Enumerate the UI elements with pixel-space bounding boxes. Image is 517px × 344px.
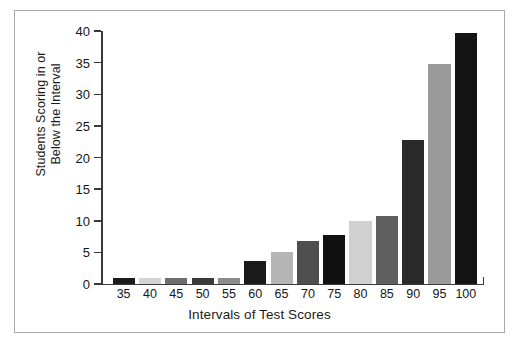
- bar: [218, 278, 240, 284]
- x-axis-tick-label: 90: [406, 287, 420, 301]
- y-axis-tick-label: 20: [30, 150, 90, 165]
- x-axis-title: Intervals of Test Scores: [15, 307, 504, 322]
- y-axis-tick: [94, 188, 101, 190]
- bar: [455, 33, 477, 284]
- y-axis-tick-label: 30: [30, 87, 90, 102]
- y-axis-tick: [94, 283, 101, 285]
- y-axis-tick-label: 40: [30, 24, 90, 39]
- y-axis-tick: [94, 125, 101, 127]
- y-axis-tick-label: 0: [30, 277, 90, 292]
- x-axis-tick-label: 100: [455, 287, 476, 301]
- bar: [165, 278, 187, 284]
- x-axis-tick-label: 50: [196, 287, 210, 301]
- bar: [323, 235, 345, 284]
- x-axis-tick-labels: 35404550556065707580859095100: [101, 287, 484, 305]
- y-axis-tick: [94, 220, 101, 222]
- bar-series: [101, 31, 484, 284]
- bar: [428, 64, 450, 284]
- x-axis-tick-label: 85: [380, 287, 394, 301]
- bar: [297, 241, 319, 284]
- y-axis-tick-label: 10: [30, 213, 90, 228]
- y-axis-tick: [94, 157, 101, 159]
- y-axis-tick: [94, 62, 101, 64]
- y-axis-tick-label: 25: [30, 118, 90, 133]
- x-axis-tick-label: 35: [117, 287, 131, 301]
- x-axis-tick-label: 70: [301, 287, 315, 301]
- x-axis-tick-label: 60: [248, 287, 262, 301]
- y-axis-tick: [94, 30, 101, 32]
- bar: [139, 278, 161, 284]
- y-axis-tick: [94, 252, 101, 254]
- bar: [271, 252, 293, 284]
- chart-figure: Students Scoring in or Below the Interva…: [14, 10, 505, 333]
- x-axis-tick-label: 55: [222, 287, 236, 301]
- x-axis-tick-label: 45: [169, 287, 183, 301]
- bar: [376, 216, 398, 284]
- y-axis-tick-label: 35: [30, 55, 90, 70]
- x-axis-tick-label: 40: [143, 287, 157, 301]
- bar: [244, 261, 266, 284]
- x-axis-tick-label: 75: [327, 287, 341, 301]
- y-axis-tick-label: 5: [30, 245, 90, 260]
- y-axis-tick: [94, 94, 101, 96]
- bar: [113, 278, 135, 284]
- y-axis-tick-labels: 0510152025303540: [24, 11, 90, 334]
- x-axis-tick-label: 80: [354, 287, 368, 301]
- x-axis-tick-label: 65: [275, 287, 289, 301]
- y-axis-tick-label: 15: [30, 182, 90, 197]
- bar: [349, 221, 371, 284]
- bar: [402, 140, 424, 284]
- bar: [192, 278, 214, 284]
- x-axis-tick-label: 95: [433, 287, 447, 301]
